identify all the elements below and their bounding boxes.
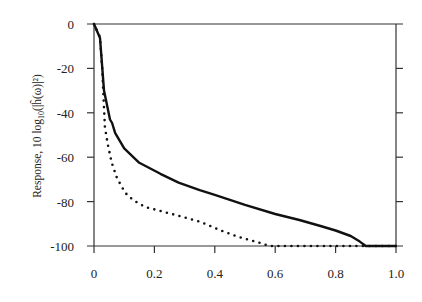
x-tick-label: 0 bbox=[91, 266, 98, 281]
y-tick-label: -60 bbox=[57, 150, 74, 165]
x-tick-label: 0.6 bbox=[267, 266, 284, 281]
y-axis-label-sub: 10 bbox=[37, 111, 46, 119]
y-tick-label: -100 bbox=[50, 239, 74, 254]
series-solid-line bbox=[94, 24, 396, 246]
y-tick-label: -40 bbox=[57, 106, 74, 121]
x-tick-label: 0.8 bbox=[327, 266, 343, 281]
y-axis-label-prefix: Response, 10 log bbox=[31, 119, 44, 198]
y-axis-label: Response, 10 log10(|ĥ(ω)|²) bbox=[30, 74, 46, 198]
plot-frame bbox=[87, 24, 403, 253]
x-tick-label: 0.4 bbox=[207, 266, 224, 281]
y-tick-label: -20 bbox=[57, 61, 74, 76]
x-axis-ticks: 00.20.40.60.81.0 bbox=[91, 246, 404, 281]
y-axis-label-suffix: (|ĥ(ω)|²) bbox=[30, 74, 44, 111]
x-tick-label: 1.0 bbox=[388, 266, 404, 281]
series-layer bbox=[94, 24, 396, 246]
line-chart: 00.20.40.60.81.0 0-20-40-60-80-100 Respo… bbox=[0, 0, 422, 302]
series-dotted-line bbox=[94, 24, 396, 246]
y-axis-ticks: 0-20-40-60-80-100 bbox=[50, 17, 403, 254]
x-tick-label: 0.2 bbox=[146, 266, 162, 281]
y-tick-label: -80 bbox=[57, 195, 74, 210]
y-tick-label: 0 bbox=[68, 17, 75, 32]
